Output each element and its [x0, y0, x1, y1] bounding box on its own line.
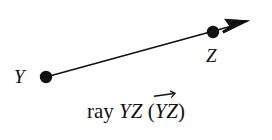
- caption-vector-label: YZ: [155, 99, 178, 123]
- overarrow-icon: [154, 91, 177, 100]
- caption-open-paren: (: [142, 99, 154, 123]
- caption-prefix: ray: [87, 99, 119, 123]
- caption-close-paren: ): [178, 99, 185, 123]
- caption-ray-name: YZ: [119, 99, 142, 123]
- overarrow-shaft: [154, 93, 174, 96]
- caption-vector-notation: YZ: [155, 98, 178, 122]
- figure-caption: ray YZ (YZ): [0, 98, 272, 122]
- ray-figure: Y Z ray YZ (YZ): [0, 0, 272, 140]
- point-label-Z: Z: [206, 46, 217, 65]
- point-Y-dot: [40, 71, 52, 83]
- point-Z-dot: [207, 26, 219, 38]
- point-label-Y: Y: [14, 67, 25, 86]
